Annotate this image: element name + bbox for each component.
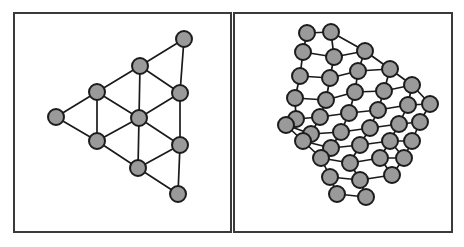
graph-node bbox=[372, 150, 388, 166]
graph-node bbox=[312, 109, 328, 125]
graph-node-circle bbox=[396, 150, 412, 166]
graph-node-circle bbox=[172, 85, 188, 101]
graph-node bbox=[347, 84, 363, 100]
left-panel bbox=[14, 13, 231, 232]
graph-node bbox=[352, 172, 368, 188]
graph-node bbox=[382, 61, 398, 77]
graph-node bbox=[89, 84, 105, 100]
graph-node bbox=[313, 150, 329, 166]
graph-node-circle bbox=[384, 167, 400, 183]
graph-node-circle bbox=[370, 102, 386, 118]
graph-node bbox=[376, 83, 392, 99]
graph-node-circle bbox=[404, 77, 420, 93]
graph-node bbox=[382, 133, 398, 149]
graph-node-circle bbox=[131, 110, 147, 126]
graph-node bbox=[172, 85, 188, 101]
graph-node bbox=[391, 116, 407, 132]
graph-node-circle bbox=[347, 84, 363, 100]
graph-node-circle bbox=[382, 133, 398, 149]
graph-node bbox=[323, 24, 339, 40]
graph-node bbox=[287, 90, 303, 106]
graph-node-circle bbox=[326, 49, 342, 65]
graph-node bbox=[170, 186, 186, 202]
graph-node bbox=[362, 120, 378, 136]
graph-node-circle bbox=[358, 189, 374, 205]
graph-node-circle bbox=[287, 90, 303, 106]
graph-node bbox=[295, 133, 311, 149]
graph-node-circle bbox=[48, 109, 64, 125]
graph-node-circle bbox=[130, 160, 146, 176]
graph-node-circle bbox=[322, 70, 338, 86]
graph-node-circle bbox=[172, 137, 188, 153]
graph-node-circle bbox=[170, 186, 186, 202]
graph-node bbox=[396, 150, 412, 166]
graph-node-circle bbox=[318, 92, 334, 108]
graph-node bbox=[89, 133, 105, 149]
graph-node-circle bbox=[295, 44, 311, 60]
graph-node-circle bbox=[352, 137, 368, 153]
graph-node bbox=[278, 117, 294, 133]
graph-node-circle bbox=[341, 105, 357, 121]
graph-node bbox=[131, 110, 147, 126]
graph-node bbox=[318, 92, 334, 108]
graph-node bbox=[404, 133, 420, 149]
graph-node bbox=[322, 70, 338, 86]
graph-node bbox=[384, 167, 400, 183]
graph-node-circle bbox=[313, 150, 329, 166]
graph-node bbox=[333, 124, 349, 140]
graph-node bbox=[342, 155, 358, 171]
graph-node-circle bbox=[400, 97, 416, 113]
graph-node-circle bbox=[422, 96, 438, 112]
graph-node bbox=[299, 25, 315, 41]
graph-node bbox=[48, 109, 64, 125]
graph-node-circle bbox=[322, 169, 338, 185]
graph-node bbox=[370, 102, 386, 118]
panels-group bbox=[14, 13, 452, 232]
graph-node bbox=[350, 63, 366, 79]
graph-node bbox=[400, 97, 416, 113]
graph-node bbox=[329, 186, 345, 202]
left-panel-frame bbox=[14, 13, 231, 232]
graph-node bbox=[322, 169, 338, 185]
graph-node bbox=[132, 58, 148, 74]
right-panel bbox=[234, 13, 452, 232]
graph-node bbox=[422, 96, 438, 112]
graph-node-circle bbox=[342, 155, 358, 171]
graph-node-circle bbox=[372, 150, 388, 166]
graph-node-circle bbox=[329, 186, 345, 202]
graph-node bbox=[292, 68, 308, 84]
graph-node bbox=[295, 44, 311, 60]
graph-node bbox=[341, 105, 357, 121]
graph-node-circle bbox=[278, 117, 294, 133]
graph-node-circle bbox=[89, 84, 105, 100]
graph-node-circle bbox=[295, 133, 311, 149]
graph-node-circle bbox=[391, 116, 407, 132]
graph-node bbox=[352, 137, 368, 153]
graph-node-circle bbox=[89, 133, 105, 149]
graph-node-circle bbox=[299, 25, 315, 41]
graph-figure bbox=[0, 0, 464, 247]
graph-node-circle bbox=[323, 24, 339, 40]
graph-node bbox=[176, 31, 192, 47]
graph-node-circle bbox=[176, 31, 192, 47]
graph-node-circle bbox=[352, 172, 368, 188]
graph-node bbox=[172, 137, 188, 153]
graph-node-circle bbox=[357, 43, 373, 59]
graph-node bbox=[412, 114, 428, 130]
graph-node-circle bbox=[404, 133, 420, 149]
graph-node bbox=[358, 189, 374, 205]
figure-container bbox=[0, 0, 464, 247]
graph-node-circle bbox=[376, 83, 392, 99]
graph-node bbox=[130, 160, 146, 176]
graph-node bbox=[326, 49, 342, 65]
graph-node-circle bbox=[362, 120, 378, 136]
graph-node-circle bbox=[312, 109, 328, 125]
graph-node-circle bbox=[412, 114, 428, 130]
graph-node bbox=[357, 43, 373, 59]
graph-node-circle bbox=[132, 58, 148, 74]
graph-node-circle bbox=[333, 124, 349, 140]
graph-node-circle bbox=[292, 68, 308, 84]
graph-node bbox=[404, 77, 420, 93]
graph-node-circle bbox=[382, 61, 398, 77]
graph-node-circle bbox=[350, 63, 366, 79]
